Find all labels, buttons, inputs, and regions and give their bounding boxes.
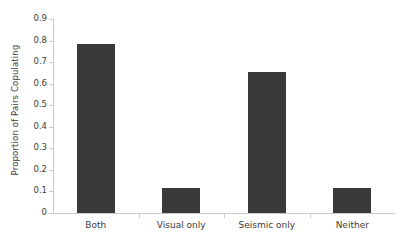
y-axis-line (53, 19, 54, 213)
y-axis-tick-label: 0 (13, 207, 47, 218)
x-axis-tick-label: Seismic only (224, 219, 310, 231)
x-axis-tick-label: Both (53, 219, 139, 231)
x-axis-tick-label: Visual only (139, 219, 225, 231)
y-axis-tick-label: 0.2 (13, 164, 47, 175)
bar-chart-figure: Proportion of Pairs Copulating 00.10.20.… (0, 0, 405, 247)
x-axis-tick-label: Neither (310, 219, 396, 231)
bar (333, 188, 371, 213)
y-axis-tick (49, 213, 53, 214)
x-axis-tick (310, 214, 311, 218)
y-axis-tick-label: 0.1 (13, 185, 47, 196)
y-axis-tick (49, 105, 53, 106)
y-axis-tick (49, 62, 53, 63)
y-axis-tick (49, 127, 53, 128)
y-axis-tick-label: 0.6 (13, 78, 47, 89)
y-axis-tick (49, 148, 53, 149)
y-axis-tick (49, 191, 53, 192)
y-axis-tick (49, 41, 53, 42)
bar (248, 72, 286, 213)
y-axis-tick-label: 0.8 (13, 35, 47, 46)
bar (162, 188, 200, 213)
y-axis-tick-label: 0.5 (13, 99, 47, 110)
y-axis-tick-label: 0.3 (13, 142, 47, 153)
bar (77, 44, 115, 213)
plot-area: 00.10.20.30.40.50.60.70.80.9 BothVisual … (53, 19, 395, 213)
y-axis-tick (49, 170, 53, 171)
y-axis-tick (49, 84, 53, 85)
y-axis-tick-label: 0.7 (13, 56, 47, 67)
y-axis-tick-label: 0.9 (13, 13, 47, 24)
x-axis-tick (139, 214, 140, 218)
x-axis-tick (224, 214, 225, 218)
y-axis-tick (49, 19, 53, 20)
y-axis-tick-label: 0.4 (13, 121, 47, 132)
